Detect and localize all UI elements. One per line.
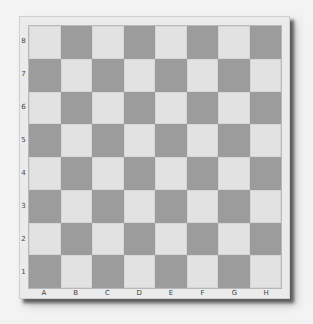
square-h4[interactable] xyxy=(250,157,282,190)
file-label: H xyxy=(250,290,282,297)
square-e3[interactable] xyxy=(155,190,187,223)
file-label: D xyxy=(123,290,155,297)
square-e4[interactable] xyxy=(155,157,187,190)
square-c6[interactable] xyxy=(92,92,124,125)
file-label: F xyxy=(187,290,219,297)
square-b5[interactable] xyxy=(61,124,93,157)
square-c1[interactable] xyxy=(92,255,124,288)
square-d3[interactable] xyxy=(124,190,156,223)
rank-label: 2 xyxy=(19,236,28,243)
square-g5[interactable] xyxy=(218,124,250,157)
square-e7[interactable] xyxy=(155,59,187,92)
square-g3[interactable] xyxy=(218,190,250,223)
square-a3[interactable] xyxy=(29,190,61,223)
square-a8[interactable] xyxy=(29,26,61,59)
chessboard-stage: 87654321 ABCDEFGH xyxy=(0,0,313,324)
file-label: A xyxy=(28,290,60,297)
square-g4[interactable] xyxy=(218,157,250,190)
square-f8[interactable] xyxy=(187,26,219,59)
square-a4[interactable] xyxy=(29,157,61,190)
square-h8[interactable] xyxy=(250,26,282,59)
square-f5[interactable] xyxy=(187,124,219,157)
square-d1[interactable] xyxy=(124,255,156,288)
square-e5[interactable] xyxy=(155,124,187,157)
file-label: B xyxy=(60,290,92,297)
square-a6[interactable] xyxy=(29,92,61,125)
square-b2[interactable] xyxy=(61,223,93,256)
square-e2[interactable] xyxy=(155,223,187,256)
square-g7[interactable] xyxy=(218,59,250,92)
square-a7[interactable] xyxy=(29,59,61,92)
square-c8[interactable] xyxy=(92,26,124,59)
rank-label: 4 xyxy=(19,170,28,177)
square-c3[interactable] xyxy=(92,190,124,223)
square-f3[interactable] xyxy=(187,190,219,223)
square-h6[interactable] xyxy=(250,92,282,125)
square-b6[interactable] xyxy=(61,92,93,125)
square-b4[interactable] xyxy=(61,157,93,190)
chessboard xyxy=(28,25,282,289)
rank-label: 6 xyxy=(19,104,28,111)
rank-label: 8 xyxy=(19,38,28,45)
square-h1[interactable] xyxy=(250,255,282,288)
square-b3[interactable] xyxy=(61,190,93,223)
square-g2[interactable] xyxy=(218,223,250,256)
square-e1[interactable] xyxy=(155,255,187,288)
square-h5[interactable] xyxy=(250,124,282,157)
square-f6[interactable] xyxy=(187,92,219,125)
square-f1[interactable] xyxy=(187,255,219,288)
square-c5[interactable] xyxy=(92,124,124,157)
rank-label: 3 xyxy=(19,203,28,210)
square-h7[interactable] xyxy=(250,59,282,92)
square-f2[interactable] xyxy=(187,223,219,256)
file-label: C xyxy=(92,290,124,297)
square-c2[interactable] xyxy=(92,223,124,256)
square-h3[interactable] xyxy=(250,190,282,223)
square-g1[interactable] xyxy=(218,255,250,288)
square-a1[interactable] xyxy=(29,255,61,288)
square-c4[interactable] xyxy=(92,157,124,190)
square-d5[interactable] xyxy=(124,124,156,157)
square-d4[interactable] xyxy=(124,157,156,190)
square-e6[interactable] xyxy=(155,92,187,125)
square-e8[interactable] xyxy=(155,26,187,59)
square-b8[interactable] xyxy=(61,26,93,59)
square-h2[interactable] xyxy=(250,223,282,256)
square-b1[interactable] xyxy=(61,255,93,288)
square-d6[interactable] xyxy=(124,92,156,125)
square-f4[interactable] xyxy=(187,157,219,190)
square-g8[interactable] xyxy=(218,26,250,59)
square-a2[interactable] xyxy=(29,223,61,256)
file-label: E xyxy=(155,290,187,297)
square-g6[interactable] xyxy=(218,92,250,125)
rank-label: 5 xyxy=(19,137,28,144)
rank-label: 1 xyxy=(19,269,28,276)
square-f7[interactable] xyxy=(187,59,219,92)
square-a5[interactable] xyxy=(29,124,61,157)
file-label: G xyxy=(219,290,251,297)
square-b7[interactable] xyxy=(61,59,93,92)
square-d7[interactable] xyxy=(124,59,156,92)
square-d2[interactable] xyxy=(124,223,156,256)
square-d8[interactable] xyxy=(124,26,156,59)
square-c7[interactable] xyxy=(92,59,124,92)
rank-label: 7 xyxy=(19,71,28,78)
